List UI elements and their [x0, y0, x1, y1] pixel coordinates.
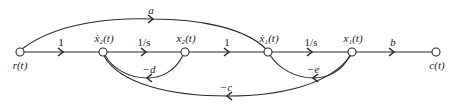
- gain-minus-e: −e: [307, 64, 319, 75]
- gain-r-x2dot: 1: [58, 37, 64, 48]
- gain-x2dot-x2: 1/s: [138, 37, 151, 48]
- signal-flow-graph: r(t) ẋ₂(t) x₂(t) ẋ₁(t) x₁(t) c(t) 1 1/s …: [0, 0, 454, 112]
- label-node-x2dot: ẋ₂(t): [94, 33, 113, 44]
- node-x2: [181, 48, 189, 56]
- node-x1: [348, 48, 356, 56]
- label-node-c: c(t): [429, 60, 444, 71]
- node-x1dot: [264, 48, 272, 56]
- gain-x1-c: b: [390, 37, 396, 48]
- gain-x2-x1dot: 1: [224, 37, 230, 48]
- gain-minus-c: −c: [220, 82, 232, 93]
- gain-a: a: [148, 5, 154, 16]
- label-node-r: r(t): [13, 60, 28, 71]
- graph-canvas: [0, 0, 454, 112]
- label-node-x2: x₂(t): [176, 33, 195, 44]
- label-node-x1: x₁(t): [343, 33, 362, 44]
- gain-minus-d: −d: [143, 64, 156, 75]
- gain-x1dot-x1: 1/s: [305, 37, 318, 48]
- label-node-x1dot: ẋ₁(t): [259, 33, 278, 44]
- node-c: [432, 48, 440, 56]
- node-r: [16, 48, 24, 56]
- node-x2dot: [99, 48, 107, 56]
